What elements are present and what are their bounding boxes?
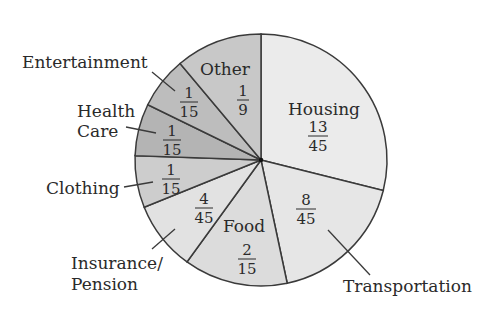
- label-other: Other: [200, 59, 251, 79]
- svg-text:1: 1: [167, 122, 177, 140]
- label-housing: Housing: [288, 99, 360, 119]
- label-health-line1: Health: [77, 101, 135, 121]
- svg-text:15: 15: [237, 260, 256, 278]
- svg-text:45: 45: [308, 137, 327, 155]
- svg-text:1: 1: [238, 82, 248, 100]
- fraction-housing: 13 45: [308, 118, 328, 155]
- svg-text:45: 45: [194, 209, 213, 227]
- label-entertainment: Entertainment: [22, 52, 148, 72]
- pie-svg: Entertainment Health Care Clothing Insur…: [0, 0, 490, 315]
- svg-text:2: 2: [242, 241, 252, 259]
- label-insurance-line1: Insurance/: [71, 253, 163, 273]
- svg-text:45: 45: [296, 210, 315, 228]
- svg-text:4: 4: [199, 190, 209, 208]
- label-clothing: Clothing: [46, 178, 120, 198]
- label-insurance-line2: Pension: [71, 274, 138, 294]
- svg-text:8: 8: [301, 191, 311, 209]
- pie-chart: Entertainment Health Care Clothing Insur…: [0, 0, 490, 315]
- label-food: Food: [223, 216, 265, 236]
- svg-text:13: 13: [308, 118, 327, 136]
- label-health-line2: Care: [77, 121, 118, 141]
- pie-center-dot: [259, 158, 263, 162]
- svg-text:15: 15: [161, 180, 180, 198]
- svg-text:1: 1: [184, 84, 194, 102]
- svg-text:15: 15: [179, 103, 198, 121]
- svg-text:9: 9: [238, 101, 248, 119]
- svg-text:1: 1: [166, 161, 176, 179]
- label-transportation: Transportation: [343, 276, 472, 296]
- svg-text:15: 15: [162, 141, 181, 159]
- fraction-other: 1 9: [237, 82, 249, 119]
